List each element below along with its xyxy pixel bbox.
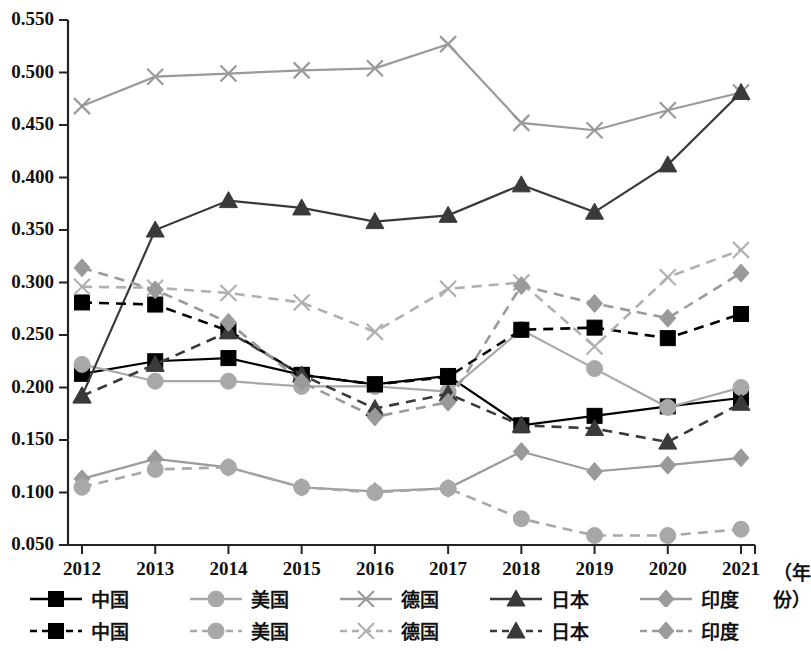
data-point-circle [147, 461, 163, 477]
series-line [82, 332, 741, 442]
y-axis-tick-label: 0.450 [0, 113, 54, 135]
legend-item-日本-dashed[interactable]: 日本 [488, 617, 638, 644]
legend-label: 美国 [251, 585, 289, 612]
legend-item-中国-solid[interactable]: 中国 [28, 585, 188, 612]
data-point-triangle [512, 176, 530, 192]
data-point-square [734, 307, 749, 322]
data-point-triangle [439, 206, 457, 222]
chart-legend: 中国美国德国日本印度 中国美国德国日本印度 [28, 582, 758, 646]
data-point-diamond [513, 277, 529, 295]
data-point-circle [660, 528, 676, 544]
legend-label: 美国 [251, 617, 289, 644]
series-line [82, 250, 741, 347]
x-axis-tick-label: 2012 [42, 558, 122, 580]
data-point-circle [440, 480, 456, 496]
data-point-square [367, 377, 382, 392]
legend-label: 中国 [91, 617, 129, 644]
series-7 [74, 459, 749, 543]
data-point-cross [294, 294, 310, 310]
legend-label: 德国 [401, 585, 439, 612]
data-point-circle [587, 528, 603, 544]
data-point-triangle [507, 622, 525, 638]
series-line [82, 358, 741, 425]
legend-label: 印度 [701, 617, 739, 644]
data-point-square [49, 624, 64, 639]
data-point-cross [74, 98, 90, 114]
data-point-circle [587, 361, 603, 377]
legend-item-德国-solid[interactable]: 德国 [338, 585, 488, 612]
data-point-triangle [73, 387, 91, 403]
legend-item-美国-solid[interactable]: 美国 [188, 585, 338, 612]
data-point-square [221, 351, 236, 366]
data-point-cross [660, 102, 676, 118]
legend-label: 中国 [91, 585, 129, 612]
data-point-cross [440, 281, 456, 297]
data-point-cross [733, 242, 749, 258]
data-point-triangle [586, 203, 604, 219]
x-axis-tick-label: 2015 [262, 558, 342, 580]
data-point-diamond [660, 309, 676, 327]
y-axis-tick-label: 0.200 [0, 376, 54, 398]
legend-swatch-diamond-icon [638, 589, 694, 607]
data-point-diamond [587, 463, 603, 481]
x-axis-tick-label: 2016 [335, 558, 415, 580]
series-line [82, 452, 741, 492]
data-point-circle [513, 511, 529, 527]
x-axis-tick-label: 2014 [188, 558, 268, 580]
y-axis-tick-label: 0.400 [0, 166, 54, 188]
data-point-diamond [587, 295, 603, 313]
legend-label: 日本 [551, 585, 589, 612]
data-point-triangle [146, 221, 164, 237]
legend-item-印度-dashed[interactable]: 印度 [638, 617, 758, 644]
y-axis-tick-label: 0.500 [0, 61, 54, 83]
data-point-circle [74, 356, 90, 372]
legend-row-solid: 中国美国德国日本印度 [28, 582, 758, 614]
legend-swatch-cross-icon [338, 589, 394, 607]
y-axis-tick-label: 0.100 [0, 481, 54, 503]
x-axis-tick-label: 2017 [408, 558, 488, 580]
data-point-circle [733, 521, 749, 537]
legend-item-日本-solid[interactable]: 日本 [488, 585, 638, 612]
x-axis-tick-label: 2020 [628, 558, 708, 580]
series-3 [74, 36, 749, 138]
legend-item-印度-solid[interactable]: 印度 [638, 585, 758, 612]
series-line [82, 92, 741, 395]
data-point-diamond [733, 449, 749, 467]
legend-item-美国-dashed[interactable]: 美国 [188, 617, 338, 644]
legend-swatch-triangle-icon [488, 621, 544, 639]
data-point-circle [208, 591, 224, 607]
legend-swatch-triangle-icon [488, 589, 544, 607]
legend-item-中国-dashed[interactable]: 中国 [28, 617, 188, 644]
data-point-cross [660, 269, 676, 285]
data-point-circle [220, 459, 236, 475]
data-point-circle [74, 479, 90, 495]
y-axis-tick-label: 0.300 [0, 271, 54, 293]
series-4 [73, 83, 750, 402]
legend-label: 日本 [551, 617, 589, 644]
data-point-circle [733, 380, 749, 396]
data-point-triangle [219, 192, 237, 208]
legend-swatch-circle-icon [188, 621, 244, 639]
data-point-square [514, 322, 529, 337]
series-line [82, 44, 741, 130]
data-point-circle [367, 485, 383, 501]
data-point-square [660, 331, 675, 346]
data-point-cross [367, 324, 383, 340]
legend-item-德国-dashed[interactable]: 德国 [338, 617, 488, 644]
legend-row-dashed: 中国美国德国日本印度 [28, 614, 758, 646]
y-axis-tick-label: 0.050 [0, 533, 54, 555]
y-axis-tick-label: 0.150 [0, 428, 54, 450]
series-5 [74, 443, 749, 501]
legend-swatch-circle-icon [188, 589, 244, 607]
data-point-circle [660, 399, 676, 415]
data-point-diamond [513, 443, 529, 461]
x-axis-tick-label: 2018 [481, 558, 561, 580]
data-point-circle [147, 373, 163, 389]
data-point-diamond [658, 622, 674, 639]
x-axis-tick-label: 2019 [555, 558, 635, 580]
legend-swatch-cross-icon [338, 621, 394, 639]
data-point-circle [208, 623, 224, 639]
x-axis-tick-label: 2021 [701, 558, 781, 580]
